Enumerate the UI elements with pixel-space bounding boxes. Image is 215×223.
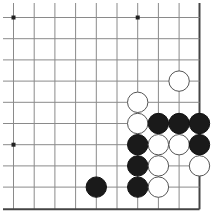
white-stone [128,113,148,133]
star-point-icon [136,16,140,20]
white-stone [169,135,189,155]
white-stone [189,156,209,176]
stones-layer [86,71,210,197]
white-stone [128,92,148,112]
white-stone [148,177,168,197]
black-stone [169,113,189,133]
black-stone [128,135,148,155]
star-point-icon [12,16,16,20]
go-board-svg [0,0,215,223]
white-stone [169,71,189,91]
star-point-icon [12,143,16,147]
black-stone [128,156,148,176]
black-stone [189,113,209,133]
black-stone [86,177,106,197]
go-board [0,0,215,223]
white-stone [148,156,168,176]
black-stone [148,113,168,133]
black-stone [189,135,209,155]
black-stone [128,177,148,197]
white-stone [148,135,168,155]
